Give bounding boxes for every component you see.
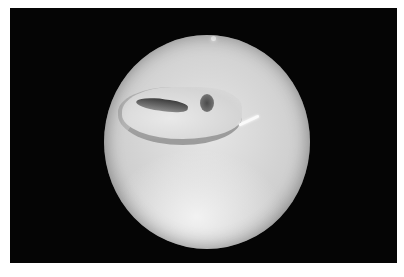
endoscope-view: [104, 35, 310, 249]
vignette: [104, 35, 310, 249]
image-frame: [10, 8, 397, 263]
